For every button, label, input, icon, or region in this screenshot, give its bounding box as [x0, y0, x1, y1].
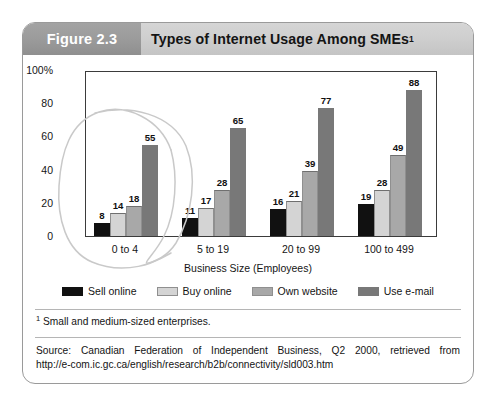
bar[interactable]: 14: [110, 213, 126, 236]
y-axis-tick-label: 60: [22, 130, 53, 142]
legend-item[interactable]: Use e-mail: [358, 285, 434, 297]
figure-footnote: 1 Small and medium-sized enterprises.: [36, 316, 460, 327]
chart-region: 020406080100% 81418551117286516213977192…: [23, 55, 473, 295]
bar-value-label: 77: [306, 95, 346, 106]
chart-legend: Sell onlineBuy onlineOwn websiteUse e-ma…: [23, 281, 473, 301]
bar[interactable]: 8: [94, 223, 110, 236]
bar-value-label: 55: [130, 132, 170, 143]
legend-item[interactable]: Own website: [252, 285, 338, 297]
bar[interactable]: 21: [286, 201, 302, 236]
bar[interactable]: 55: [142, 145, 158, 236]
bar[interactable]: 65: [230, 128, 246, 236]
legend-swatch: [252, 287, 273, 296]
y-axis-tick-label: 100%: [22, 64, 53, 76]
bar-rect: [302, 171, 318, 236]
y-axis-tick-label: 40: [22, 164, 53, 176]
figure-title: Types of Internet Usage Among SMEs1: [151, 23, 465, 55]
legend-item[interactable]: Sell online: [62, 285, 136, 297]
bar[interactable]: 39: [302, 171, 318, 236]
bar[interactable]: 49: [390, 155, 406, 236]
legend-item[interactable]: Buy online: [157, 285, 232, 297]
legend-swatch: [157, 287, 178, 296]
legend-swatch: [62, 287, 83, 296]
bar-rect: [198, 208, 214, 236]
bar-rect: [270, 209, 286, 236]
divider-rule-bottom: [35, 337, 461, 338]
y-axis-tick-label: 20: [22, 197, 53, 209]
divider-rule-top: [35, 309, 461, 310]
bar[interactable]: 19: [358, 204, 374, 236]
source-line-1: Source: Canadian Federation of Independe…: [36, 344, 460, 358]
bars-layer: 8141855111728651621397719284988: [86, 72, 436, 236]
bar-value-label: 65: [218, 115, 258, 126]
figure-number-badge: Figure 2.3: [23, 23, 141, 55]
bar-rect: [126, 206, 142, 236]
legend-label: Use e-mail: [384, 285, 434, 297]
bar[interactable]: 28: [214, 190, 230, 236]
bar-value-label: 88: [394, 77, 434, 88]
bar-group: 8141855: [86, 72, 174, 236]
bar[interactable]: 11: [182, 218, 198, 236]
bar-group: 19284988: [350, 72, 438, 236]
figure-container: Figure 2.3 Types of Internet Usage Among…: [22, 22, 474, 384]
legend-label: Buy online: [183, 285, 232, 297]
source-url[interactable]: http://e-com.ic.gc.ca/english/research/b…: [36, 358, 460, 372]
bar-rect: [214, 190, 230, 236]
bar-rect: [390, 155, 406, 236]
footnote-text: Small and medium-sized enterprises.: [40, 316, 210, 327]
bar[interactable]: 16: [270, 209, 286, 236]
bar-rect: [406, 90, 422, 236]
y-axis-tick-label: 0: [22, 230, 53, 242]
legend-label: Sell online: [88, 285, 136, 297]
bar-group: 16213977: [262, 72, 350, 236]
bar[interactable]: 28: [374, 190, 390, 236]
bar-rect: [182, 218, 198, 236]
bar-rect: [318, 108, 334, 236]
figure-header: Figure 2.3 Types of Internet Usage Among…: [23, 23, 473, 55]
bar-rect: [142, 145, 158, 236]
bar-group: 11172865: [174, 72, 262, 236]
bar[interactable]: 88: [406, 90, 422, 236]
legend-label: Own website: [278, 285, 338, 297]
y-axis-tick-label: 80: [22, 97, 53, 109]
legend-swatch: [358, 287, 379, 296]
plot-area: 8141855111728651621397719284988: [85, 71, 437, 237]
bar[interactable]: 17: [198, 208, 214, 236]
bar-rect: [358, 204, 374, 236]
bar-rect: [374, 190, 390, 236]
bar-rect: [230, 128, 246, 236]
x-axis-title: Business Size (Employees): [23, 262, 473, 274]
figure-title-text: Types of Internet Usage Among SMEs: [151, 31, 409, 47]
bar-rect: [110, 213, 126, 236]
bar-rect: [286, 201, 302, 236]
x-axis-category-label: 100 to 499: [334, 243, 444, 255]
bar[interactable]: 77: [318, 108, 334, 236]
bar[interactable]: 18: [126, 206, 142, 236]
figure-source: Source: Canadian Federation of Independe…: [36, 344, 460, 372]
bar-rect: [94, 223, 110, 236]
